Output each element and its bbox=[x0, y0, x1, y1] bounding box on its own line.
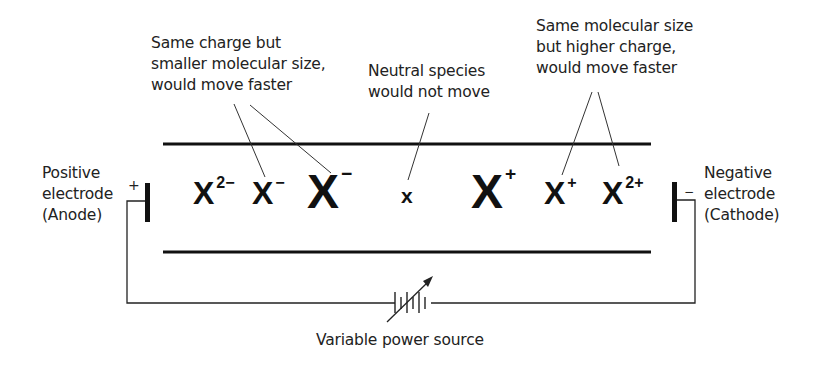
label-line: (Cathode) bbox=[704, 205, 779, 226]
ion-base: X bbox=[471, 165, 503, 218]
label-line: Negative bbox=[704, 163, 779, 184]
annotation-line: but higher charge, bbox=[536, 37, 693, 58]
diagram-drawing bbox=[0, 0, 821, 366]
annotation-line: Same molecular size bbox=[536, 16, 693, 37]
annotation-line: would move faster bbox=[151, 75, 325, 96]
ion-x-minus-large: X− bbox=[307, 168, 352, 216]
label-line: (Anode) bbox=[42, 205, 113, 226]
cathode-plate bbox=[672, 182, 677, 222]
leader-neutral bbox=[408, 113, 429, 180]
anode-label: Positive electrode (Anode) bbox=[42, 163, 113, 226]
ion-charge: − bbox=[275, 174, 284, 191]
annotation-line: Neutral species bbox=[368, 61, 490, 82]
ion-base: X bbox=[544, 175, 565, 211]
annotation-line: Same charge but bbox=[151, 33, 325, 54]
ion-charge: + bbox=[505, 163, 516, 184]
power-source-label: Variable power source bbox=[316, 330, 484, 351]
label-line: Positive bbox=[42, 163, 113, 184]
ion-base: X bbox=[602, 175, 623, 211]
ion-charge: 2− bbox=[216, 174, 234, 191]
anode-plate bbox=[145, 183, 150, 222]
ion-x-plus-small: X+ bbox=[544, 177, 577, 209]
leader-smaller-size-a bbox=[234, 104, 265, 177]
ion-x-2minus: X2− bbox=[193, 177, 235, 209]
ion-x-minus-small: X− bbox=[252, 177, 285, 209]
neutral-species: x bbox=[401, 185, 413, 206]
label-line: electrode bbox=[42, 184, 113, 205]
ion-x-plus-large: X+ bbox=[471, 168, 516, 216]
annotation-neutral: Neutral species would not move bbox=[368, 61, 490, 103]
leader-lines bbox=[234, 92, 619, 180]
ion-charge: + bbox=[567, 174, 576, 191]
annotation-higher-charge: Same molecular size but higher charge, w… bbox=[536, 16, 693, 79]
ion-charge: − bbox=[341, 163, 352, 184]
ion-charge: 2+ bbox=[625, 174, 643, 191]
label-line: electrode bbox=[704, 184, 779, 205]
leader-smaller-size-b bbox=[250, 105, 331, 173]
variable-power-source-icon bbox=[387, 276, 433, 322]
ion-base: X bbox=[252, 175, 273, 211]
ion-base: X bbox=[193, 175, 214, 211]
cathode-sign: − bbox=[684, 182, 694, 203]
leader-higher-charge-a bbox=[562, 92, 592, 175]
annotation-line: smaller molecular size, bbox=[151, 54, 325, 75]
annotation-smaller-size: Same charge but smaller molecular size, … bbox=[151, 33, 325, 96]
annotation-line: would move faster bbox=[536, 58, 693, 79]
ion-x-2plus: X2+ bbox=[602, 177, 644, 209]
cathode-label: Negative electrode (Cathode) bbox=[704, 163, 779, 226]
annotation-line: would not move bbox=[368, 82, 490, 103]
ion-base: X bbox=[307, 165, 339, 218]
anode-sign: + bbox=[128, 175, 140, 196]
leader-higher-charge-b bbox=[598, 92, 619, 166]
